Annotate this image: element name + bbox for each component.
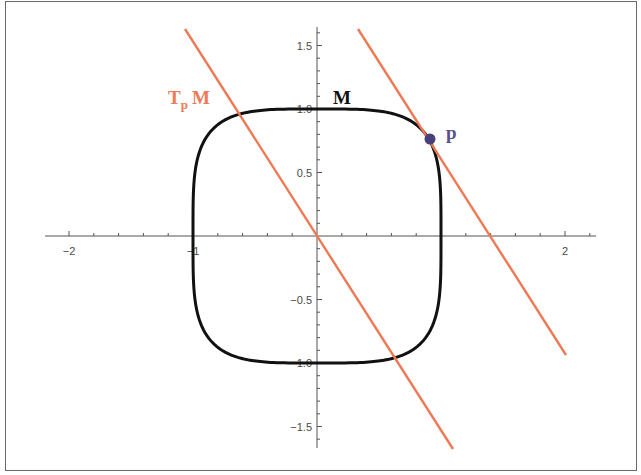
tangent-line-at-p: [358, 29, 566, 355]
point-label: p: [446, 122, 457, 143]
tangent-space-label: TpM: [168, 87, 210, 112]
plot-canvas: −2−12−1.5−1.0−0.50.51.01.5 TpM M p: [0, 0, 641, 475]
x-tick-label: 2: [562, 245, 568, 257]
y-tick-label: −0.5: [290, 294, 312, 306]
manifold-label: M: [333, 87, 351, 108]
point-p: [425, 134, 436, 145]
y-tick-label: 0.5: [297, 167, 312, 179]
y-tick-label: −1.5: [290, 421, 312, 433]
x-tick-label: −2: [63, 245, 76, 257]
y-tick-label: 1.5: [297, 40, 312, 52]
tangent-space-line: [185, 29, 453, 449]
axes: [45, 27, 596, 448]
